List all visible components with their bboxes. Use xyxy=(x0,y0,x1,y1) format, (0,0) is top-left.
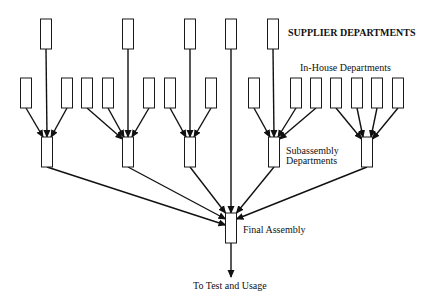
in-house-department-box xyxy=(249,78,260,108)
in-house-department-box xyxy=(144,78,155,108)
subassembly-label-line2: Departments xyxy=(286,155,337,166)
in-house-department-box xyxy=(352,78,363,108)
in-house-department-box xyxy=(372,78,383,108)
flow-arrow xyxy=(280,108,317,139)
in-house-department-box xyxy=(62,78,73,108)
flow-arrow xyxy=(273,49,274,137)
in-house-department-box xyxy=(165,78,176,108)
nodes-layer xyxy=(21,19,404,243)
flow-arrow xyxy=(371,108,377,137)
in-house-department-box xyxy=(21,78,32,108)
flow-arrow xyxy=(46,49,47,137)
subassembly-department-box xyxy=(185,137,196,167)
flow-arrow xyxy=(357,108,363,137)
in-house-department-box xyxy=(82,78,93,108)
subassembly-department-box xyxy=(269,137,280,167)
flow-arrow xyxy=(194,108,211,137)
final-assembly-department-box xyxy=(226,213,237,243)
output-label: To Test and Usage xyxy=(193,280,267,291)
supplier-department-box xyxy=(268,19,279,49)
in-house-department-box xyxy=(393,78,404,108)
subassembly-department-box xyxy=(362,137,373,167)
in-house-department-box xyxy=(311,78,322,108)
flow-arrow xyxy=(190,167,226,213)
supplier-department-box xyxy=(123,19,134,49)
flow-arrow xyxy=(170,108,186,137)
supplier-department-box xyxy=(226,19,237,49)
flow-arrow xyxy=(47,167,226,225)
subassembly-department-box xyxy=(123,137,134,167)
flow-arrow xyxy=(132,108,149,137)
in-house-department-box xyxy=(103,78,114,108)
flow-arrow xyxy=(26,108,43,137)
in-house-department-box xyxy=(331,78,342,108)
final-assembly-label: Final Assembly xyxy=(243,224,306,235)
flow-arrow xyxy=(51,108,67,137)
flow-arrow xyxy=(237,167,368,219)
supplier-departments-label: SUPPLIER DEPARTMENTS xyxy=(288,27,416,38)
supplier-department-box xyxy=(41,19,52,49)
in-house-department-box xyxy=(291,78,302,108)
in-house-department-box xyxy=(206,78,217,108)
supplier-department-box xyxy=(185,19,196,49)
flow-arrow xyxy=(254,108,270,137)
subassembly-department-box xyxy=(42,137,53,167)
in-house-departments-label: In-House Departments xyxy=(300,62,391,73)
production-flow-diagram: SUPPLIER DEPARTMENTS In-House Department… xyxy=(0,0,422,300)
